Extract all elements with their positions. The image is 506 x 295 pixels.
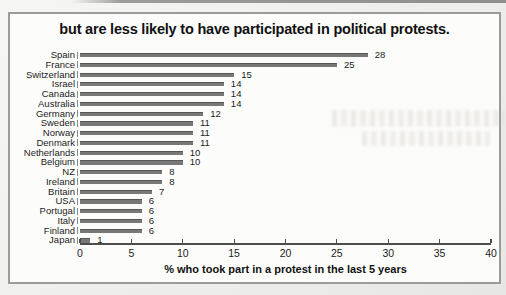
category-tick <box>77 198 78 205</box>
bar <box>80 190 152 194</box>
category-tick <box>77 188 78 195</box>
category-tick <box>77 110 78 117</box>
bar-row: Belgium10 <box>10 157 499 167</box>
bar <box>80 82 224 86</box>
bar-row: Netherlands10 <box>10 148 499 158</box>
x-axis-tick-label: 35 <box>428 247 452 259</box>
bar-row: Australia14 <box>10 99 499 109</box>
x-axis-tick <box>131 239 132 243</box>
bar-row: Finland6 <box>10 226 499 236</box>
scanned-page: but are less likely to have participated… <box>0 0 506 295</box>
bar <box>80 238 90 242</box>
bar <box>80 92 224 96</box>
bar <box>80 160 183 164</box>
bar <box>80 170 162 174</box>
bar <box>80 229 142 233</box>
value-label: 10 <box>190 157 201 167</box>
category-tick <box>77 227 78 234</box>
print-bleed-artifact <box>362 131 490 146</box>
x-axis-tick-label: 20 <box>274 247 298 259</box>
x-axis-tick <box>336 239 337 243</box>
bar <box>80 209 142 213</box>
x-axis-line <box>80 243 491 245</box>
bar-row: Spain28 <box>10 50 499 60</box>
print-bleed-artifact <box>332 110 504 127</box>
x-axis-tick-label: 25 <box>325 247 349 259</box>
value-label: 28 <box>375 50 386 60</box>
value-label: 11 <box>200 138 210 148</box>
category-tick <box>77 208 78 215</box>
bar-row: Canada14 <box>10 89 499 99</box>
bar <box>80 121 193 125</box>
x-axis-tick-label: 30 <box>376 247 400 259</box>
category-tick <box>77 81 78 88</box>
x-axis-tick <box>490 239 491 243</box>
x-axis-tick <box>234 239 235 243</box>
category-tick <box>77 71 78 78</box>
bar-chart: Spain28France25Switzerland15Israel14Cana… <box>10 14 499 282</box>
category-tick <box>77 120 78 127</box>
category-tick <box>77 91 78 98</box>
value-label: 8 <box>169 177 174 187</box>
category-tick <box>77 178 78 185</box>
bar <box>80 73 234 77</box>
x-axis-tick <box>79 239 80 243</box>
category-tick <box>77 217 78 224</box>
value-label: 7 <box>159 187 164 197</box>
category-tick <box>77 169 78 176</box>
bar <box>80 219 142 223</box>
bar <box>80 199 142 203</box>
bar <box>80 141 193 145</box>
x-axis-tick <box>439 239 440 243</box>
category-tick <box>77 130 78 137</box>
bar-row: USA6 <box>10 196 499 206</box>
bar <box>80 131 193 135</box>
category-tick <box>77 237 78 244</box>
category-tick <box>77 139 78 146</box>
bar <box>80 53 368 57</box>
x-axis-tick-label: 5 <box>119 247 143 259</box>
x-axis-label: % who took part in a protest in the last… <box>80 263 491 275</box>
x-axis-tick-label: 15 <box>222 247 246 259</box>
bar <box>80 112 203 116</box>
bar <box>80 151 183 155</box>
x-axis-tick-label: 40 <box>479 247 503 259</box>
category-tick <box>77 159 78 166</box>
x-axis-tick <box>388 239 389 243</box>
category-label: Japan <box>10 235 75 245</box>
bar-row: Ireland8 <box>10 177 499 187</box>
value-label: 6 <box>149 226 154 236</box>
category-tick <box>77 149 78 156</box>
bar-row: Israel14 <box>10 79 499 89</box>
bar-row: France25 <box>10 60 499 70</box>
bar <box>80 63 337 67</box>
scan-edge-artifact <box>0 0 506 3</box>
bar-row: Britain7 <box>10 187 499 197</box>
bar <box>80 102 224 106</box>
x-axis-tick-label: 10 <box>171 247 195 259</box>
chart-panel: but are less likely to have participated… <box>8 12 501 284</box>
bar-row: Italy6 <box>10 216 499 226</box>
bar-row: NZ8 <box>10 167 499 177</box>
category-tick <box>77 52 78 59</box>
x-axis-tick <box>182 239 183 243</box>
bar <box>80 180 162 184</box>
value-label: 25 <box>344 60 355 70</box>
category-tick <box>77 100 78 107</box>
x-axis-tick-label: 0 <box>68 247 92 259</box>
category-tick <box>77 61 78 68</box>
value-label: 12 <box>210 109 221 119</box>
value-label: 15 <box>241 70 252 80</box>
x-axis-tick <box>285 239 286 243</box>
bar-row: Portugal6 <box>10 206 499 216</box>
value-label: 14 <box>231 99 242 109</box>
bar-row: Switzerland15 <box>10 70 499 80</box>
